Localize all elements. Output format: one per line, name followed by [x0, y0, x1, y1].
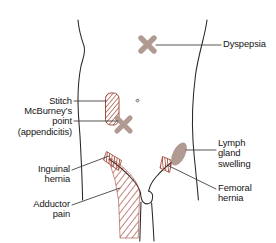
leader-inguinal — [72, 156, 109, 170]
mcburney-point-marker — [117, 118, 130, 131]
navel-mark — [136, 99, 139, 102]
label-lymph-gland-swelling: Lymph gland swelling — [218, 138, 274, 169]
leader-adductor — [72, 188, 120, 205]
adductor-pain-marker — [110, 158, 140, 238]
dyspepsia-marker — [141, 38, 154, 51]
label-inguinal-hernia: Inguinal hernia — [6, 164, 70, 185]
label-femoral-hernia: Femoral hernia — [218, 183, 274, 204]
crotch-contour — [141, 191, 153, 204]
left-torso-contour — [78, 20, 85, 200]
left-inner-thigh — [152, 203, 154, 241]
right-inner-thigh — [140, 202, 141, 241]
label-mcburneys-point: McBurney’s point (appendicitis) — [2, 106, 72, 137]
label-adductor-pain: Adductor pain — [6, 199, 70, 220]
anatomical-diagram-figure: Dyspepsia Stitch McBurney’s point (appen… — [0, 0, 276, 243]
label-dyspepsia: Dyspepsia — [223, 39, 275, 49]
right-torso-contour — [192, 20, 207, 200]
leader-lines — [72, 45, 221, 205]
leader-femoral — [167, 165, 216, 189]
